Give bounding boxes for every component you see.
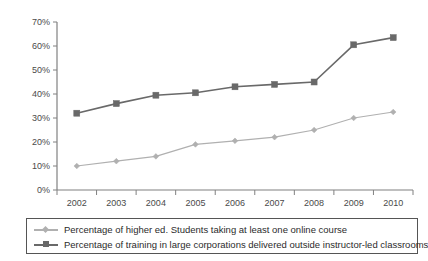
data-point-marker <box>311 127 317 133</box>
x-axis-ticks <box>57 190 413 195</box>
x-axis-tick-label: 2003 <box>106 198 126 208</box>
data-point-marker <box>390 35 396 41</box>
x-axis-tick-labels: 200220032004200520062007200820092010 <box>67 198 403 208</box>
data-point-marker <box>232 138 238 144</box>
data-point-marker <box>114 158 120 164</box>
x-axis-tick-label: 2006 <box>225 198 245 208</box>
y-axis-tick-label: 10% <box>32 161 50 171</box>
data-point-marker <box>232 84 238 90</box>
legend-marker-square-icon <box>33 239 59 251</box>
data-point-marker <box>351 42 357 48</box>
y-axis-tick-label: 40% <box>32 89 50 99</box>
legend-item-online-course: Percentage of higher ed. Students taking… <box>33 223 411 237</box>
legend-label-online-course: Percentage of higher ed. Students taking… <box>64 224 347 236</box>
x-axis-tick-label: 2007 <box>265 198 285 208</box>
legend-marker-diamond-icon <box>33 224 59 236</box>
x-axis-tick-label: 2008 <box>304 198 324 208</box>
data-point-marker <box>153 154 159 160</box>
data-point-marker <box>272 81 278 87</box>
legend-item-corporate-training: Percentage of training in large corporat… <box>33 238 411 252</box>
data-point-marker <box>390 109 396 115</box>
chart-legend: Percentage of higher ed. Students taking… <box>26 218 418 254</box>
y-axis-tick-labels: 0%10%20%30%40%50%60%70% <box>32 17 50 195</box>
data-point-marker <box>351 115 357 121</box>
y-axis-tick-label: 30% <box>32 113 50 123</box>
data-point-marker <box>113 101 119 107</box>
data-point-marker <box>311 79 317 85</box>
legend-label-corporate-training: Percentage of training in large corporat… <box>64 239 428 251</box>
data-point-marker <box>192 90 198 96</box>
series-line <box>77 38 393 114</box>
plot-area: 0%10%20%30%40%50%60%70% 2002200320042005… <box>0 0 427 212</box>
data-point-marker <box>193 142 199 148</box>
data-point-marker <box>153 92 159 98</box>
x-axis-tick-label: 2009 <box>344 198 364 208</box>
x-axis-tick-label: 2002 <box>67 198 87 208</box>
x-axis-tick-label: 2010 <box>383 198 403 208</box>
y-axis-tick-label: 0% <box>37 185 50 195</box>
y-axis-tick-label: 60% <box>32 41 50 51</box>
series-lines <box>77 38 393 166</box>
y-axis-tick-label: 20% <box>32 137 50 147</box>
data-point-marker <box>272 134 278 140</box>
line-chart-svg: 0%10%20%30%40%50%60%70% 2002200320042005… <box>0 0 427 212</box>
y-axis-tick-label: 50% <box>32 65 50 75</box>
x-axis-tick-label: 2004 <box>146 198 166 208</box>
data-point-marker <box>74 110 80 116</box>
x-axis-tick-label: 2005 <box>185 198 205 208</box>
data-point-marker <box>74 163 80 169</box>
y-axis-tick-label: 70% <box>32 17 50 27</box>
